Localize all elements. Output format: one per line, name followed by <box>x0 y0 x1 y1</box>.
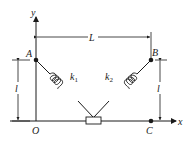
x-axis-label: x <box>177 116 183 127</box>
right-height-label: l <box>157 83 160 94</box>
two-spring-diagram: y x O L l l k1 k2 <box>0 0 189 144</box>
span-dimension: L <box>37 31 151 58</box>
point-a-label: A <box>25 48 33 59</box>
y-axis-label: y <box>30 7 36 18</box>
left-height-dimension: l <box>12 60 30 121</box>
point-a-dot <box>34 58 39 63</box>
sliding-block <box>86 117 101 124</box>
origin-label: O <box>32 125 39 136</box>
left-height-label: l <box>15 83 18 94</box>
spring-k1: k1 <box>36 60 93 117</box>
point-b-label: B <box>152 47 158 58</box>
spring-k2: k2 <box>94 60 151 117</box>
right-height-dimension: l <box>155 60 167 120</box>
span-label: L <box>88 32 95 43</box>
point-c-dot <box>149 119 154 124</box>
spring-k2-label: k2 <box>105 71 113 84</box>
point-c-label: C <box>146 125 153 136</box>
point-b-dot <box>149 58 154 63</box>
y-axis: y <box>30 7 36 121</box>
spring-k1-label: k1 <box>70 71 78 84</box>
